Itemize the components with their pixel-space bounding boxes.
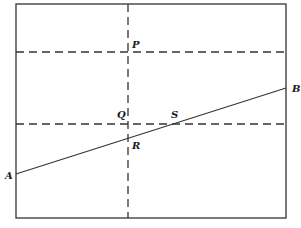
point-label-q: Q [117, 109, 126, 120]
frame-rectangle [16, 4, 286, 218]
point-label-r: R [131, 140, 140, 151]
segment-ab [16, 88, 286, 174]
point-label-p: P [131, 39, 140, 50]
geometry-diagram: A B P Q R S [0, 0, 301, 228]
point-label-b: B [291, 83, 300, 94]
point-label-a: A [4, 170, 13, 181]
point-label-s: S [171, 109, 178, 120]
